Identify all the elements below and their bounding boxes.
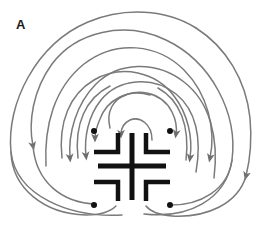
dot-lower-left bbox=[91, 202, 97, 208]
circuit-arc-1-left bbox=[109, 95, 126, 128]
circuit-arc-1-right bbox=[116, 92, 176, 134]
circuit-arc-inner-nest-b bbox=[158, 88, 187, 160]
circuit-arc-3 bbox=[61, 72, 191, 158]
entry-tail-inner-right bbox=[168, 160, 232, 205]
dot-upper-left bbox=[91, 128, 97, 134]
circuit-arc-4 bbox=[70, 66, 216, 178]
circuit-arc-1-left-sweep bbox=[95, 93, 150, 138]
labyrinth-diagram bbox=[0, 0, 265, 242]
bracket-upper-right bbox=[146, 133, 170, 152]
figure-panel: A bbox=[0, 0, 265, 242]
bracket-lower-right bbox=[146, 182, 170, 201]
circuit-arc-2 bbox=[86, 82, 199, 172]
bracket-lower-left bbox=[94, 182, 118, 201]
circuit-arc-inner-nest-a bbox=[77, 86, 110, 158]
dot-lower-right bbox=[167, 202, 173, 208]
seed-pattern-cross bbox=[98, 133, 166, 200]
dot-upper-right bbox=[167, 128, 173, 134]
bracket-upper-left bbox=[94, 133, 118, 152]
